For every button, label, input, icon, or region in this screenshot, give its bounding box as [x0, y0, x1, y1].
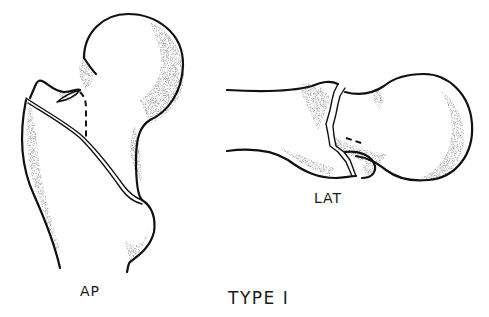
figure-title: TYPE I: [228, 288, 289, 308]
lat-view-drawing: [227, 74, 472, 180]
lat-shading: [280, 84, 464, 180]
ap-view-label: AP: [80, 283, 100, 299]
femur-diagram: [0, 0, 489, 317]
lat-fracture-line-right: [333, 88, 356, 176]
ap-fracture-line-lower: [28, 103, 142, 204]
ap-shading: [27, 22, 184, 262]
ap-greater-trochanter: [30, 81, 80, 98]
ap-dashed-line: [80, 92, 86, 140]
ap-view-drawing: [22, 14, 184, 272]
lat-dashed-line: [346, 138, 364, 144]
ap-lesser-trochanter: [127, 200, 155, 272]
lat-view-label: LAT: [314, 190, 342, 206]
